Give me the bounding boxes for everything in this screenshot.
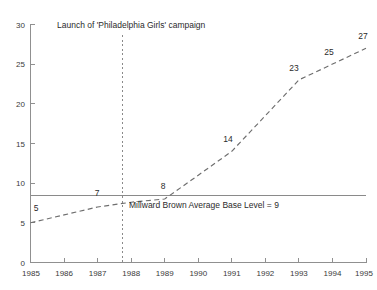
x-axis-ticks xyxy=(31,258,367,263)
y-tick-label: 30 xyxy=(16,21,25,30)
x-tick-label: 1987 xyxy=(89,269,107,278)
x-tick-label: 1994 xyxy=(324,269,342,278)
x-tick-label: 1995 xyxy=(355,269,373,278)
x-tick-label: 1993 xyxy=(290,269,308,278)
base-level-label: Millward Brown Average Base Level = 9 xyxy=(129,200,279,210)
y-tick-label: 15 xyxy=(16,140,25,149)
campaign-launch-label: Launch of 'Philadelphia Girls' campaign xyxy=(57,20,206,30)
y-tick-label: 5 xyxy=(21,219,26,228)
point-label: 14 xyxy=(223,134,233,144)
x-axis-tick-labels: 1985 1986 1987 1988 1989 1990 1991 1992 … xyxy=(22,269,373,278)
y-axis-tick-labels: 30 25 20 15 10 5 0 xyxy=(16,21,25,268)
x-tick-label: 1992 xyxy=(257,269,275,278)
point-label: 7 xyxy=(95,188,100,198)
y-tick-label: 10 xyxy=(16,179,25,188)
x-tick-label: 1986 xyxy=(55,269,73,278)
x-tick-label: 1988 xyxy=(122,269,140,278)
x-tick-label: 1990 xyxy=(189,269,207,278)
point-label: 27 xyxy=(358,31,368,41)
y-tick-label: 20 xyxy=(16,100,25,109)
x-tick-label: 1991 xyxy=(223,269,241,278)
x-tick-label: 1985 xyxy=(22,269,40,278)
chart-container: 30 25 20 15 10 5 0 1985 1986 1987 198 xyxy=(0,0,377,290)
series-awareness-index xyxy=(31,48,367,223)
y-axis-ticks xyxy=(31,25,36,263)
point-label: 8 xyxy=(161,181,166,191)
x-tick-label: 1989 xyxy=(156,269,174,278)
point-label: 5 xyxy=(34,203,39,213)
line-chart: 30 25 20 15 10 5 0 1985 1986 1987 198 xyxy=(0,0,377,290)
point-label: 25 xyxy=(324,47,334,57)
y-tick-label: 25 xyxy=(16,60,25,69)
y-tick-label: 0 xyxy=(21,259,26,268)
point-label: 23 xyxy=(289,63,299,73)
